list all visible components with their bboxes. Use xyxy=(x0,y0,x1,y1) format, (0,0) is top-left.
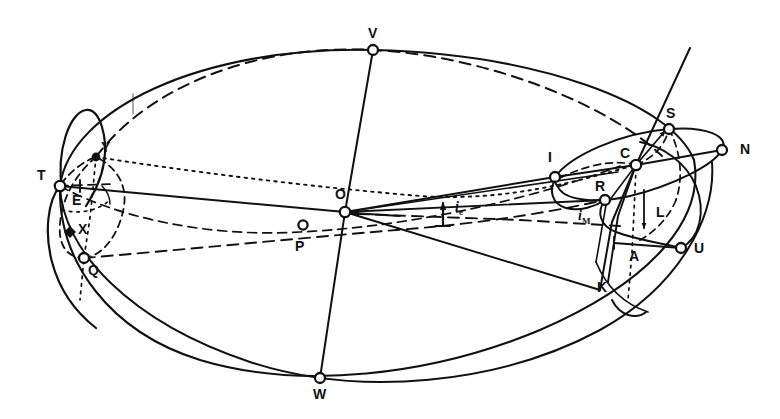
point-label-L: L xyxy=(656,205,665,219)
point-label-R: R xyxy=(595,179,605,193)
marker-N xyxy=(717,145,727,155)
point-label-U: U xyxy=(694,241,704,255)
point-label-V: V xyxy=(368,26,377,40)
marker-Y xyxy=(92,153,101,162)
marker-P xyxy=(298,220,307,229)
point-label-W: W xyxy=(313,387,326,401)
point-label-N: N xyxy=(740,142,750,156)
point-markers xyxy=(55,45,727,383)
marker-O xyxy=(340,207,350,217)
point-label-O: O xyxy=(335,187,346,201)
marker-S xyxy=(664,124,674,134)
point-label-X: X xyxy=(78,222,87,236)
marker-R xyxy=(600,195,610,205)
point-label-E: E xyxy=(72,193,81,207)
angle-label-i-m: iM xyxy=(578,209,590,226)
angle-label-i-m-sub: M xyxy=(582,216,591,226)
marker-W xyxy=(315,373,325,383)
marker-U xyxy=(676,243,686,253)
point-label-P: P xyxy=(295,239,304,253)
left-satellite-loop xyxy=(48,110,105,328)
marker-T xyxy=(55,181,65,191)
point-label-I: I xyxy=(548,150,552,164)
marker-C xyxy=(631,160,641,170)
marker-I xyxy=(550,172,560,182)
point-label-Q: Q xyxy=(88,263,99,277)
point-label-S: S xyxy=(666,106,675,120)
point-label-Y: Y xyxy=(101,140,110,154)
angle-label-i-e-sub: e xyxy=(459,207,463,217)
dashed-segment-T-E xyxy=(60,184,112,186)
orbital-diagram-figure: V S N Y I C T E R O X P L U A Q K W ie i… xyxy=(0,0,780,419)
point-label-A: A xyxy=(629,249,639,263)
dotted-drop-C-to-bottom xyxy=(628,168,636,300)
point-label-C: C xyxy=(620,146,630,160)
point-label-K: K xyxy=(597,280,607,294)
dashed-ecliptic-far-half xyxy=(96,49,662,157)
marker-V xyxy=(368,45,378,55)
angle-label-i-e: ie xyxy=(455,200,463,217)
angle-tick-near-E xyxy=(102,186,110,204)
point-label-T: T xyxy=(37,168,46,182)
